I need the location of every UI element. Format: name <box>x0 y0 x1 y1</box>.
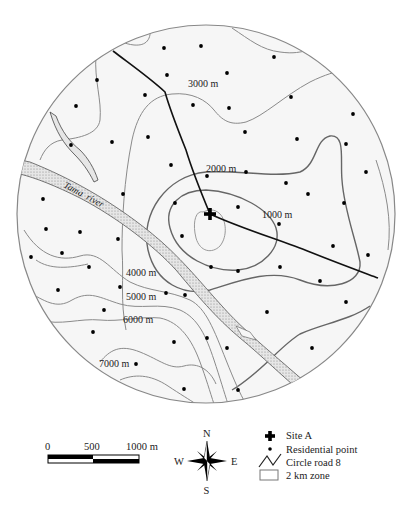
residential-point <box>227 106 231 110</box>
residential-point <box>277 222 281 226</box>
residential-point <box>191 103 195 107</box>
legend-site-a: Site A <box>286 430 312 441</box>
residential-point <box>121 192 125 196</box>
residential-point <box>118 285 122 289</box>
legend-residential-point: Residential point <box>286 444 358 455</box>
contour-label-3000: 3000 m <box>188 78 219 89</box>
residential-point <box>143 93 147 97</box>
residential-point <box>225 346 229 350</box>
residential-point <box>165 73 169 77</box>
legend-cross-icon <box>265 431 275 441</box>
residential-point <box>169 163 173 167</box>
residential-point <box>244 170 248 174</box>
residential-point <box>289 95 293 99</box>
residential-point <box>44 227 48 231</box>
residential-point <box>91 330 95 334</box>
residential-point <box>364 170 368 174</box>
compass-w: W <box>174 456 184 467</box>
residential-point <box>182 387 186 391</box>
residential-point <box>69 143 73 147</box>
residential-point <box>225 71 229 75</box>
residential-point <box>29 255 33 259</box>
scale-tick-0: 0 <box>45 441 50 452</box>
residential-point <box>180 234 184 238</box>
residential-point <box>205 336 209 340</box>
residential-point <box>366 253 370 257</box>
residential-point <box>310 346 314 350</box>
residential-point <box>236 205 240 209</box>
residential-point <box>344 300 348 304</box>
residential-point <box>78 230 82 234</box>
compass-n: N <box>203 428 211 439</box>
residential-point <box>173 201 177 205</box>
residential-point <box>56 288 60 292</box>
residential-point <box>74 104 78 108</box>
map-legend: Site A Residential point Circle road 8 2… <box>259 430 358 481</box>
residential-point <box>265 310 269 314</box>
study-area-map: 3000 m 2000 m 1000 m 4000 m 5000 m 6000 … <box>0 0 405 509</box>
residential-point <box>116 237 120 241</box>
residential-point <box>146 135 150 139</box>
contour-label-5000: 5000 m <box>126 291 157 302</box>
residential-point <box>306 192 310 196</box>
residential-point <box>318 279 322 283</box>
residential-point <box>209 265 213 269</box>
scale-tick-1000: 1000 m <box>126 441 158 452</box>
legend-road-icon <box>259 454 281 467</box>
residential-point <box>199 44 203 48</box>
residential-point <box>102 308 106 312</box>
scale-tick-500: 500 <box>84 441 100 452</box>
residential-point <box>295 137 299 141</box>
map-figure: 3000 m 2000 m 1000 m 4000 m 5000 m 6000 … <box>0 0 405 509</box>
residential-point <box>164 291 168 295</box>
residential-point <box>110 140 114 144</box>
scale-bar: 0 500 1000 m <box>45 441 158 463</box>
contour-label-2000: 2000 m <box>206 163 237 174</box>
residential-point <box>162 46 166 50</box>
residential-point <box>236 388 240 392</box>
residential-point <box>205 174 209 178</box>
legend-circle-road: Circle road 8 <box>286 457 341 468</box>
residential-point <box>278 265 282 269</box>
residential-point <box>134 362 138 366</box>
residential-point <box>183 293 187 297</box>
legend-2km-zone: 2 km zone <box>286 470 330 481</box>
compass-e: E <box>231 456 237 467</box>
residential-point <box>243 130 247 134</box>
residential-point <box>60 251 64 255</box>
residential-point <box>344 142 348 146</box>
residential-point <box>342 201 346 205</box>
legend-dot-icon <box>268 447 272 451</box>
residential-point <box>331 244 335 248</box>
residential-point <box>351 112 355 116</box>
residential-point <box>41 197 45 201</box>
legend-zone-box-icon <box>260 470 278 480</box>
residential-point <box>172 340 176 344</box>
contour-label-7000: 7000 m <box>99 358 130 369</box>
contour-label-1000: 1000 m <box>262 209 293 220</box>
north-arrow-compass: N S E W <box>174 428 237 496</box>
residential-point <box>87 265 91 269</box>
residential-point <box>95 78 99 82</box>
contour-label-4000: 4000 m <box>126 267 157 278</box>
compass-s: S <box>204 485 210 496</box>
residential-point <box>236 269 240 273</box>
residential-point <box>284 181 288 185</box>
contour-label-6000: 6000 m <box>123 314 154 325</box>
residential-point <box>272 55 276 59</box>
